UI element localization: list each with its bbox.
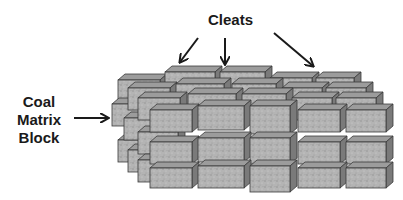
coal-block [198,100,251,130]
coal-block [150,162,199,188]
coal-block [346,162,393,188]
cleats-label: Cleats [208,11,253,29]
coal-label-line-3: Block [14,129,64,147]
cleats-arrow-right-icon [274,33,313,66]
coal-block [298,104,347,132]
coal-block [250,160,297,192]
cleats-arrow-left-icon [180,38,198,62]
coal-block [150,104,199,132]
coal-block [298,136,347,164]
coal-block [198,160,251,188]
coal-block [346,104,393,132]
coal-label-line-2: Matrix [14,111,64,129]
coal-block [198,132,251,162]
coal-block [298,162,347,188]
coal-block [150,136,199,164]
coal-matrix-blocks [112,66,393,192]
coal-matrix-block-label: Coal Matrix Block [14,93,64,147]
coal-block [250,100,297,134]
coal-block [250,132,297,164]
coal-block [346,136,393,164]
coal-label-line-1: Coal [14,93,64,111]
